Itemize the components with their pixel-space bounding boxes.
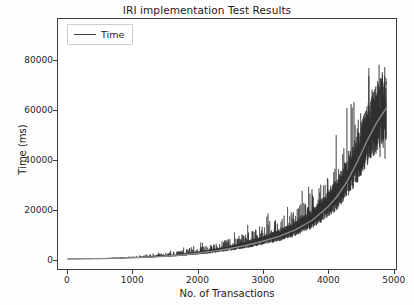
chart-legend: Time: [67, 24, 133, 45]
x-axis-label: No. of Transactions: [57, 288, 397, 299]
x-tick-mark: [263, 270, 264, 274]
y-tick-mark: [53, 110, 57, 111]
x-tick-label: 3000: [252, 275, 275, 285]
y-tick-mark: [53, 160, 57, 161]
series-time-plot: [58, 19, 396, 269]
legend-label-time: Time: [101, 29, 124, 40]
y-tick-label: 40000: [24, 155, 53, 165]
x-tick-mark: [198, 270, 199, 274]
y-tick-mark: [53, 60, 57, 61]
x-tick-label: 0: [64, 275, 70, 285]
chart-title: IRI implementation Test Results: [0, 4, 414, 16]
legend-line-swatch-time: [74, 34, 96, 35]
x-tick-label: 1000: [121, 275, 144, 285]
y-tick-label: 20000: [24, 205, 53, 215]
series-line-time-noise: [68, 65, 386, 259]
x-tick-mark: [394, 270, 395, 274]
plot-area: Time: [57, 18, 397, 270]
x-tick-label: 4000: [317, 275, 340, 285]
y-tick-label: 80000: [24, 55, 53, 65]
chart-figure: IRI implementation Test Results Time 020…: [0, 0, 414, 305]
x-tick-mark: [132, 270, 133, 274]
y-tick-mark: [53, 260, 57, 261]
x-tick-mark: [328, 270, 329, 274]
x-tick-label: 2000: [186, 275, 209, 285]
x-tick-mark: [67, 270, 68, 274]
y-axis-label: Time (ms): [17, 100, 28, 200]
y-tick-mark: [53, 210, 57, 211]
x-tick-label: 5000: [382, 275, 405, 285]
y-tick-label: 60000: [24, 105, 53, 115]
